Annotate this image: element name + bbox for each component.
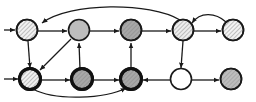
node-B2[interactable] bbox=[72, 69, 93, 90]
node-B1[interactable] bbox=[20, 69, 41, 90]
edge-B2-T2 bbox=[79, 43, 80, 69]
graph-figure bbox=[0, 0, 256, 102]
node-T4[interactable] bbox=[173, 20, 194, 41]
edge-T4-B4 bbox=[181, 41, 183, 68]
node-B3[interactable] bbox=[121, 69, 142, 90]
graph-canvas bbox=[0, 0, 256, 102]
edge-T2-B1 bbox=[40, 39, 71, 70]
node-B5[interactable] bbox=[221, 69, 242, 90]
node-T5[interactable] bbox=[223, 20, 244, 41]
edge-T5-T4-arc bbox=[192, 15, 226, 23]
node-B4[interactable] bbox=[171, 69, 192, 90]
node-T1[interactable] bbox=[17, 20, 38, 41]
edge-T4-T1-arc bbox=[42, 7, 180, 23]
edge-T1-B1 bbox=[28, 41, 30, 68]
nodes-layer bbox=[17, 20, 244, 90]
node-T2[interactable] bbox=[69, 20, 90, 41]
node-T3[interactable] bbox=[121, 20, 142, 41]
